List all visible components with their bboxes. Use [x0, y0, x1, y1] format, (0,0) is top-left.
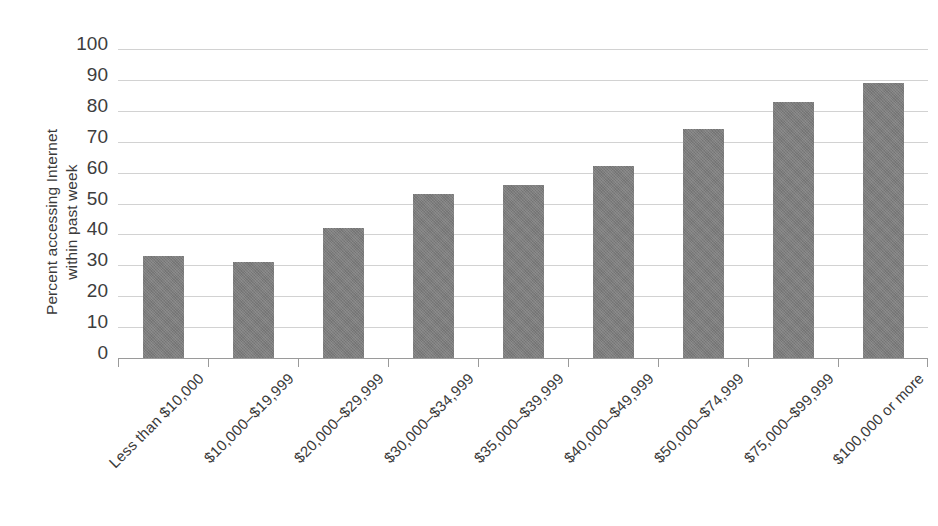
- x-axis-tick: [927, 358, 928, 367]
- x-axis-category-labels: Less than $10,000$10,000–$19,999$20,000–…: [118, 368, 928, 526]
- gridline-100: [118, 49, 928, 50]
- x-axis-tick-marks: [118, 358, 928, 368]
- y-tick-label-60: 60: [46, 157, 108, 176]
- x-axis-tick: [748, 358, 749, 367]
- bar: [143, 256, 184, 358]
- y-tick-label-30: 30: [46, 250, 108, 269]
- x-axis-label-0: Less than $10,000: [106, 370, 206, 470]
- x-axis-tick: [208, 358, 209, 367]
- y-tick-label-80: 80: [46, 96, 108, 115]
- y-tick-label-10: 10: [46, 312, 108, 331]
- bar: [233, 262, 274, 358]
- y-tick-label-70: 70: [46, 126, 108, 145]
- y-tick-label-20: 20: [46, 281, 108, 300]
- x-axis-label-3: $30,000–$34,999: [381, 370, 476, 465]
- bar: [323, 228, 364, 358]
- bar: [503, 185, 544, 358]
- x-axis-tick: [298, 358, 299, 367]
- x-axis-label-2: $20,000–$29,999: [291, 370, 386, 465]
- x-axis-tick: [478, 358, 479, 367]
- x-axis-tick: [658, 358, 659, 367]
- bar-chart-figure: Percent accessing Internet within past w…: [0, 0, 938, 526]
- x-axis-label-6: $50,000–$74,999: [651, 370, 746, 465]
- x-axis-label-4: $35,000–$39,999: [471, 370, 566, 465]
- x-axis-tick: [838, 358, 839, 367]
- bar: [593, 166, 634, 358]
- x-axis-tick: [568, 358, 569, 367]
- x-axis-label-5: $40,000–$49,999: [561, 370, 656, 465]
- y-tick-label-100: 100: [46, 34, 108, 53]
- gridline-90: [118, 80, 928, 81]
- y-tick-label-90: 90: [46, 65, 108, 84]
- x-axis-label-8: $100,000 or more: [830, 370, 927, 467]
- x-axis-label-7: $75,000–$99,999: [741, 370, 836, 465]
- bar: [683, 129, 724, 358]
- plot-area: 1009080706050403020100: [118, 49, 928, 358]
- y-tick-label-50: 50: [46, 188, 108, 207]
- y-tick-label-40: 40: [46, 219, 108, 238]
- bar: [773, 102, 814, 358]
- x-axis-tick: [118, 358, 119, 367]
- bar: [413, 194, 454, 358]
- x-axis-label-1: $10,000–$19,999: [201, 370, 296, 465]
- x-axis-tick: [388, 358, 389, 367]
- bar: [863, 83, 904, 358]
- y-tick-label-0: 0: [46, 343, 108, 362]
